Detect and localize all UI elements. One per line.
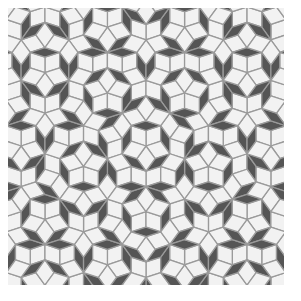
penrose-tiling-frame [8, 8, 284, 285]
penrose-tiling [8, 8, 284, 285]
